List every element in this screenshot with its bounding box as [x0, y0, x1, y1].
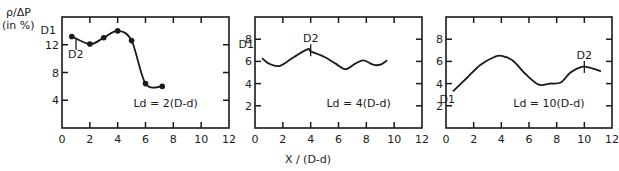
data-curve — [262, 49, 387, 69]
x-tick-label: 10 — [194, 133, 208, 146]
x-tick-label: 12 — [605, 133, 619, 146]
x-tick-label: 2 — [86, 133, 93, 146]
annotation-d2: D2 — [68, 48, 83, 61]
x-tick-label: 4 — [498, 133, 505, 146]
x-tick-label: 10 — [577, 133, 591, 146]
data-point — [101, 35, 107, 41]
panel-title: Ld = 10(D-d) — [513, 97, 584, 110]
y-tick-label: 4 — [245, 78, 252, 91]
plot-frame — [446, 17, 612, 128]
data-point — [143, 81, 149, 87]
annotation-d2: D2 — [303, 32, 318, 45]
x-tick-label: 4 — [307, 133, 314, 146]
x-tick-label: 0 — [252, 133, 259, 146]
x-tick-label: 8 — [170, 133, 177, 146]
data-point — [69, 34, 75, 40]
annotation-d1: D1 — [239, 38, 254, 51]
x-tick-label: 8 — [553, 133, 560, 146]
x-tick-label: 0 — [443, 133, 450, 146]
x-axis-label: X / (D-d) — [285, 153, 331, 166]
annotation-d2: D2 — [577, 49, 592, 62]
y-tick-label: 8 — [436, 33, 443, 46]
annotation-d1: D1 — [440, 93, 455, 106]
x-tick-label: 10 — [387, 133, 401, 146]
y-tick-label: 6 — [436, 55, 443, 68]
y-tick-label: 8 — [52, 67, 59, 80]
y-tick-label: 4 — [52, 94, 59, 107]
y-axis-label-line1: ρ/ΔP — [6, 6, 31, 19]
x-tick-label: 6 — [335, 133, 342, 146]
data-curve — [72, 31, 163, 88]
y-tick-label: 6 — [245, 55, 252, 68]
x-tick-label: 0 — [59, 133, 66, 146]
panel-title: Ld = 2(D-d) — [133, 97, 197, 110]
annotation-d1: D1 — [41, 24, 56, 37]
y-axis-label: ρ/ΔP (in %) — [2, 6, 35, 32]
chart-panel-2: 0246810122468D1D2Ld = 4(D-d) — [239, 17, 429, 146]
x-tick-label: 12 — [415, 133, 429, 146]
chart-panel-3: 0246810122468D1D2Ld = 10(D-d) — [436, 17, 619, 146]
x-tick-label: 4 — [114, 133, 121, 146]
y-tick-label: 12 — [45, 39, 59, 52]
chart-panel-1: 0246810124812D1D2Ld = 2(D-d) — [41, 17, 236, 146]
x-tick-label: 6 — [142, 133, 149, 146]
y-axis-label-line2: (in %) — [2, 19, 35, 32]
data-point — [87, 41, 93, 47]
x-tick-label: 2 — [470, 133, 477, 146]
x-tick-label: 2 — [279, 133, 286, 146]
plot-frame — [255, 17, 422, 128]
figure-canvas: ρ/ΔP (in %) 0246810124812D1D2Ld = 2(D-d)… — [0, 0, 619, 171]
data-point — [129, 38, 135, 44]
y-tick-label: 2 — [245, 100, 252, 113]
data-point — [159, 84, 165, 90]
plot-frame — [62, 17, 229, 128]
x-tick-label: 8 — [363, 133, 370, 146]
y-tick-label: 4 — [436, 78, 443, 91]
x-tick-label: 6 — [526, 133, 533, 146]
data-point — [115, 28, 121, 34]
panel-title: Ld = 4(D-d) — [326, 97, 390, 110]
x-tick-label: 12 — [222, 133, 236, 146]
